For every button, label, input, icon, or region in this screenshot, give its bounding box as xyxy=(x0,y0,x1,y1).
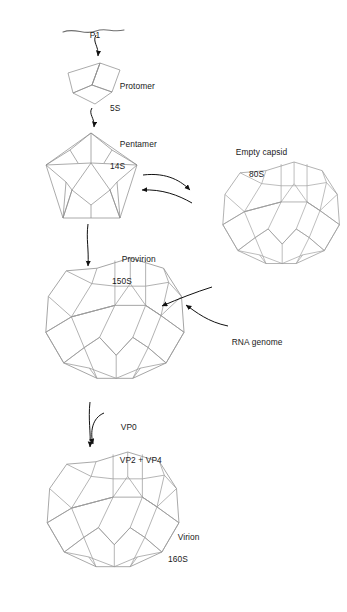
label-pentamer: Pentamer 14S xyxy=(110,128,157,194)
label-rna-genome-line1: RNA genome xyxy=(232,337,283,347)
label-protomer: Protomer 5S xyxy=(110,70,155,136)
label-pentamer-line2: 14S xyxy=(110,161,157,172)
label-vp2-vp4-line1: VP2 + VP4 xyxy=(120,455,162,465)
arrow-vp0-cleavage xyxy=(92,413,104,444)
label-protomer-line2: 5S xyxy=(110,103,155,114)
arrow-rna-genome-to-provirion xyxy=(186,305,228,326)
label-virion: Virion 160S xyxy=(168,521,200,587)
label-empty-capsid-line2: 80S xyxy=(226,169,287,180)
label-vp2-vp4: VP2 + VP4 xyxy=(110,444,162,477)
label-virion-line2: 160S xyxy=(168,554,200,565)
arrow-empty-capsid-to-provirion xyxy=(162,287,212,306)
label-empty-capsid-line1: Empty capsid xyxy=(236,147,287,157)
assembly-pathway-diagram: P1 Protomer 5S Pentamer 14S Empty capsid… xyxy=(0,0,347,612)
label-pentamer-line1: Pentamer xyxy=(120,139,157,149)
arrow-protomer-to-pentamer xyxy=(91,108,94,127)
label-provirion-line1: Provirion xyxy=(122,254,156,264)
arrow-provirion-to-virion xyxy=(89,402,90,447)
label-empty-capsid: Empty capsid 80S xyxy=(226,136,287,202)
label-provirion: Provirion 150S xyxy=(112,243,156,309)
label-p1-line1: P1 xyxy=(90,30,100,40)
label-virion-line1: Virion xyxy=(178,532,200,542)
label-vp0: VP0 xyxy=(111,411,137,444)
label-protomer-line1: Protomer xyxy=(120,81,155,91)
arrow-pentamer-to-provirion xyxy=(87,224,88,266)
label-p1: P1 xyxy=(80,19,100,52)
label-rna-genome: RNA genome xyxy=(222,326,283,359)
label-provirion-line2: 150S xyxy=(112,276,156,287)
label-vp0-line1: VP0 xyxy=(121,422,137,432)
